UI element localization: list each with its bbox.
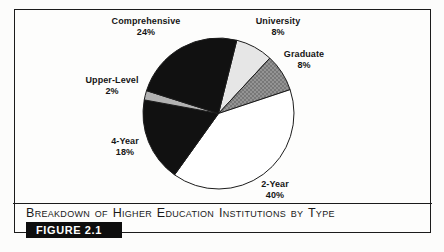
- slice-label-pct: 8%: [256, 27, 301, 38]
- figure-frame: Comprehensive 24% University 8% Graduate…: [14, 9, 431, 233]
- figure-label-badge: FIGURE 2.1: [26, 222, 122, 238]
- slice-label-name: 4-Year: [111, 136, 139, 147]
- slice-label-pct: 40%: [261, 190, 289, 201]
- slice-label-name: Upper-Level: [85, 75, 138, 86]
- pie-chart: [138, 33, 299, 194]
- slice-label-pct: 24%: [112, 27, 181, 38]
- slice-label-name: Graduate: [284, 49, 324, 60]
- pie-slices: [143, 38, 294, 189]
- slice-label-name: 2-Year: [261, 179, 289, 190]
- slice-label-graduate: Graduate 8%: [284, 49, 324, 71]
- slice-label-pct: 18%: [111, 147, 139, 158]
- slice-label-comprehensive: Comprehensive 24%: [112, 16, 181, 38]
- caption-separator: [13, 203, 432, 204]
- slice-label-pct: 8%: [284, 60, 324, 71]
- slice-label-pct: 2%: [85, 86, 138, 97]
- slice-label-university: University 8%: [256, 16, 301, 38]
- slice-label-4-year: 4-Year 18%: [111, 136, 139, 158]
- slice-label-2-year: 2-Year 40%: [261, 179, 289, 201]
- slice-label-name: Comprehensive: [112, 16, 181, 27]
- figure-label-text: FIGURE 2.1: [36, 224, 102, 236]
- slice-label-name: University: [256, 16, 301, 27]
- slice-label-upper-level: Upper-Level 2%: [85, 75, 138, 97]
- figure-caption: Breakdown of Higher Education Institutio…: [26, 206, 335, 220]
